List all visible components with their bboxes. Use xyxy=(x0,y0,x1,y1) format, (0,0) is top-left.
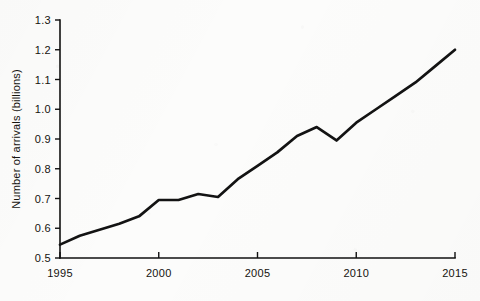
y-tick-label: 1.1 xyxy=(35,74,51,86)
data-series-line xyxy=(60,50,455,245)
y-tick-label: 0.9 xyxy=(35,133,51,145)
x-tick-label: 2015 xyxy=(442,267,468,279)
x-tick-label: 2010 xyxy=(343,267,369,279)
figure-canvas: 0.50.60.70.80.91.01.11.21.3 199520002005… xyxy=(0,0,480,301)
y-tick-label: 0.5 xyxy=(35,252,51,264)
y-tick-label: 1.3 xyxy=(35,14,51,26)
x-tick-label: 1995 xyxy=(47,267,73,279)
y-tick-label: 0.8 xyxy=(35,163,51,175)
line-chart: 0.50.60.70.80.91.01.11.21.3 199520002005… xyxy=(0,0,480,301)
y-tick-label: 1.0 xyxy=(35,103,51,115)
y-axis-ticks: 0.50.60.70.80.91.01.11.21.3 xyxy=(35,14,60,264)
y-axis-title: Number of arrivals (billions) xyxy=(10,69,22,209)
y-tick-label: 1.2 xyxy=(35,44,51,56)
x-tick-label: 2000 xyxy=(146,267,172,279)
y-tick-label: 0.7 xyxy=(35,193,51,205)
y-tick-label: 0.6 xyxy=(35,222,51,234)
x-axis-ticks: 19952000200520102015 xyxy=(47,252,468,279)
x-tick-label: 2005 xyxy=(245,267,271,279)
